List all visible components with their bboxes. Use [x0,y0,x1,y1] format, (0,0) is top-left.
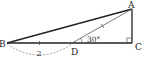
length-label: 2 [37,49,42,58]
segment-da [72,9,132,43]
point-label-b: B [0,39,6,49]
triangle-diagram: A B C D 30° 2 [0,0,145,65]
point-label-a: A [127,0,135,10]
segment-ab [7,9,132,43]
right-angle-mark [127,38,132,43]
angle-label: 30° [87,35,101,44]
point-label-d: D [71,47,78,57]
angle-arc-d [81,38,82,43]
point-label-c: C [135,42,142,52]
